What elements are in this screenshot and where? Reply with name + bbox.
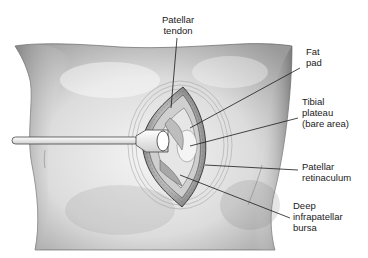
label-deep-infrapatellar-bursa: Deep infrapatellar bursa bbox=[293, 200, 343, 233]
knee-incision-diagram: Patellar tendon Fat pad Tibial plateau (… bbox=[0, 0, 368, 258]
label-patellar-tendon: Patellar tendon bbox=[148, 14, 208, 36]
label-tibial-plateau: Tibial plateau (bare area) bbox=[302, 96, 349, 129]
label-patellar-retinaculum: Patellar retinaculum bbox=[302, 161, 351, 183]
label-fat-pad: Fat pad bbox=[306, 46, 322, 68]
